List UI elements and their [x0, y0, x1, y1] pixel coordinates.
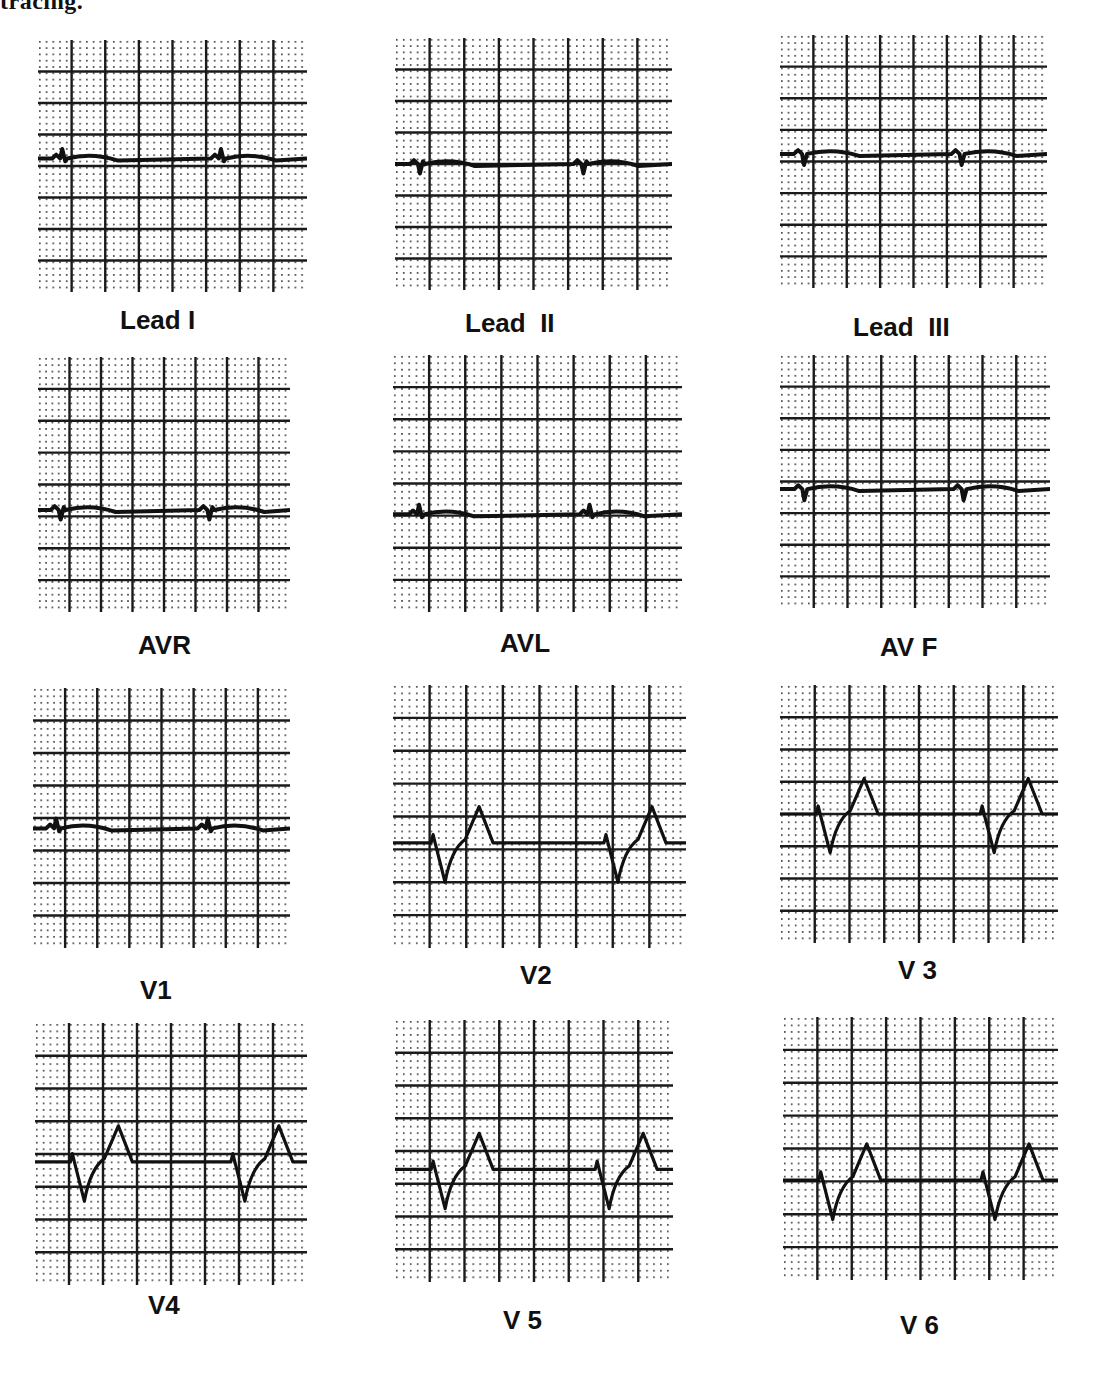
ecg-panel-v3 [780, 685, 1058, 943]
lead-label-v5: V 5 [503, 1305, 542, 1336]
lead-label-avl: AVL [500, 628, 550, 659]
ecg-grid-avf [780, 355, 1050, 608]
ecg-panel-v5 [395, 1020, 673, 1282]
ecg-grid-lead-iii [780, 35, 1047, 288]
ecg-panel-lead-iii [780, 35, 1047, 288]
ecg-panel-v4 [35, 1023, 307, 1285]
lead-label-avf: AV F [880, 632, 937, 663]
ecg-grid-v4 [35, 1023, 307, 1285]
ecg-panel-lead-i [38, 40, 307, 292]
ecg-grid-avr [38, 357, 290, 612]
ecg-panel-lead-ii [395, 38, 672, 290]
lead-label-v6: V 6 [900, 1310, 939, 1341]
ecg-grid-v3 [780, 685, 1058, 943]
lead-label-v4: V4 [148, 1290, 180, 1321]
ecg-panel-v1 [33, 688, 290, 948]
ecg-grid-lead-i [38, 40, 307, 292]
ecg-panel-avf [780, 355, 1050, 608]
ecg-panel-v6 [783, 1017, 1058, 1280]
lead-label-v3: V 3 [898, 955, 937, 986]
ecg-grid-avl [393, 355, 682, 612]
lead-label-avr: AVR [138, 630, 191, 661]
lead-label-v1: V1 [140, 975, 172, 1006]
ecg-panel-avl [393, 355, 682, 612]
lead-label-lead-iii: Lead III [853, 312, 950, 343]
clipped-heading-text: tracing. [0, 0, 83, 15]
ecg-grid-v6 [783, 1017, 1058, 1280]
ecg-panel-avr [38, 357, 290, 612]
ecg-grid-v2 [393, 685, 686, 948]
lead-label-lead-ii: Lead II [465, 308, 555, 339]
ecg-grid-lead-ii [395, 38, 672, 290]
ecg-grid-v5 [395, 1020, 673, 1282]
ecg-panel-v2 [393, 685, 686, 948]
ecg-grid-v1 [33, 688, 290, 948]
lead-label-lead-i: Lead I [120, 305, 195, 336]
lead-label-v2: V2 [520, 960, 552, 991]
